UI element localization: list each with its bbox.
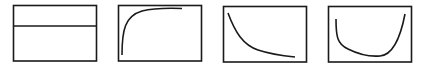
decay-curve <box>228 13 295 57</box>
panel-decay <box>224 7 307 63</box>
panel-bathtub <box>329 7 412 63</box>
saturating-curve <box>122 8 182 55</box>
panels-canvas <box>0 0 424 67</box>
panel-constant <box>14 6 97 62</box>
panel-frame <box>119 6 202 62</box>
bathtub-curve <box>336 14 405 56</box>
panel-frame <box>224 7 307 63</box>
panel-saturating <box>119 6 202 62</box>
panel-frame <box>14 6 97 62</box>
